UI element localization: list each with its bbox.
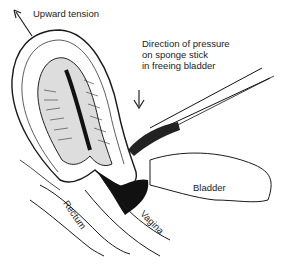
pelvic-floor bbox=[20, 160, 170, 256]
uterus bbox=[12, 30, 136, 187]
label-pressure-line-1: Direction of pressure bbox=[142, 38, 230, 49]
upward-tension-arrow bbox=[14, 10, 32, 36]
bladder bbox=[150, 153, 271, 202]
label-pressure-line-2: on sponge stick bbox=[142, 49, 208, 60]
label-bladder: Bladder bbox=[193, 182, 226, 193]
pressure-arrow bbox=[134, 90, 144, 108]
label-pressure-line-3: in freeing bladder bbox=[142, 60, 215, 71]
anatomical-illustration: Upward tension Direction of pressure on … bbox=[0, 0, 293, 264]
sponge-stick bbox=[128, 68, 274, 156]
label-upward-tension: Upward tension bbox=[33, 8, 99, 19]
